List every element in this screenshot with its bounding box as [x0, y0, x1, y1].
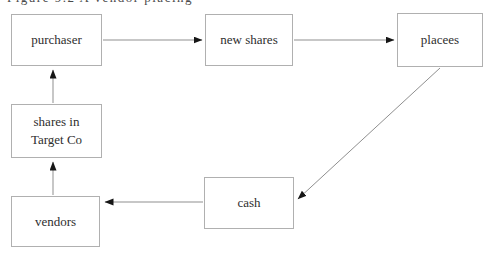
vendor-placing-diagram: Figure 9.2 A vendor placing purchaser ne… [0, 0, 492, 258]
node-cash: cash [204, 177, 294, 229]
node-purchaser-label: purchaser [31, 31, 82, 49]
cropped-caption-text: Figure 9.2 A vendor placing [7, 0, 247, 5]
node-purchaser: purchaser [11, 14, 102, 66]
node-new-shares-label: new shares [220, 31, 277, 49]
node-vendors-label: vendors [35, 213, 76, 231]
node-placees-label: placees [421, 31, 459, 49]
arrow-placees-to-cash [298, 68, 440, 199]
node-shares-in-target-co: shares in Target Co [11, 104, 102, 158]
node-shares-in-target-co-label: shares in Target Co [31, 113, 82, 148]
cropped-caption: Figure 9.2 A vendor placing [7, 0, 247, 5]
node-cash-label: cash [237, 194, 260, 212]
node-vendors: vendors [11, 196, 100, 247]
node-placees: placees [397, 13, 483, 67]
node-new-shares: new shares [205, 14, 293, 66]
